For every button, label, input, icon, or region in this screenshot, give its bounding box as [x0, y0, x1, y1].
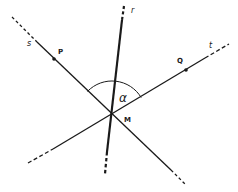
- label-t: t: [209, 41, 213, 50]
- geometry-diagram: s t r P Q M α: [0, 0, 238, 192]
- line-s-dashed-start: [12, 17, 37, 42]
- label-q: Q: [177, 57, 183, 65]
- label-s: s: [27, 39, 31, 48]
- point-p-dot: [52, 57, 56, 61]
- line-r-solid: [107, 20, 122, 152]
- point-q-dot: [184, 68, 188, 72]
- label-p: P: [58, 48, 63, 56]
- line-r-dashed-end: [105, 152, 107, 174]
- line-t-dashed-start: [28, 149, 53, 163]
- line-r-dashed-start: [122, 6, 124, 20]
- line-s-solid: [37, 42, 171, 170]
- line-s-dashed-end: [171, 170, 186, 185]
- label-alpha: α: [119, 91, 127, 105]
- label-m: M: [124, 116, 131, 124]
- line-s: [12, 17, 186, 185]
- line-t-solid: [53, 58, 205, 149]
- label-r: r: [131, 6, 135, 15]
- line-r: [105, 6, 124, 174]
